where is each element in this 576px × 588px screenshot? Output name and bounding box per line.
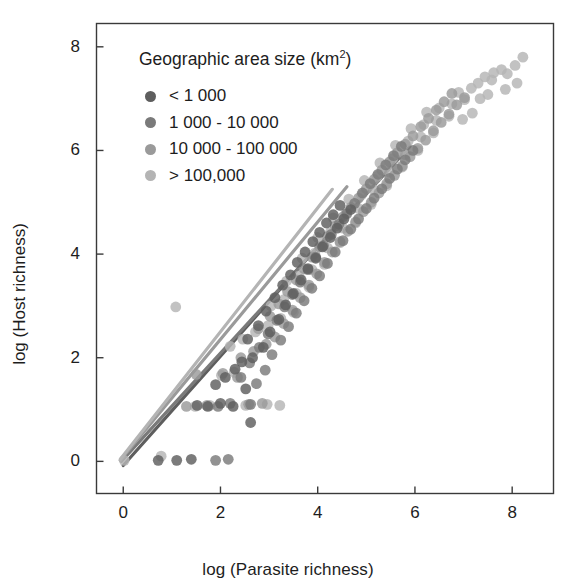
y-axis-label: log (Host richness) [10, 223, 30, 365]
y-tick-label: 0 [71, 451, 80, 471]
x-tick-label: 2 [216, 503, 225, 523]
y-tick-label: 2 [71, 348, 80, 368]
x-tick-label: 0 [119, 503, 128, 523]
y-axis-label-wrap: log (Host richness) [0, 0, 40, 588]
scatter-plot-figure [0, 0, 576, 588]
x-tick-label: 8 [507, 503, 516, 523]
x-axis-label: log (Parasite richness) [0, 560, 576, 580]
figure-root: log (Host richness) log (Parasite richne… [0, 0, 576, 588]
x-tick-label: 6 [410, 503, 419, 523]
y-tick-label: 8 [71, 37, 80, 57]
y-tick-label: 6 [71, 140, 80, 160]
y-tick-label: 4 [71, 244, 80, 264]
x-tick-label: 4 [313, 503, 322, 523]
